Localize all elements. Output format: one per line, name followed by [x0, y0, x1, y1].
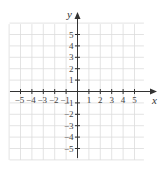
x-tick-label: 1 — [87, 95, 92, 105]
x-tick-label: 2 — [98, 95, 103, 105]
y-tick-label: 1 — [69, 75, 74, 85]
y-axis-arrow-icon — [75, 12, 81, 19]
y-axis-label: y — [66, 8, 72, 20]
y-tick-label: 3 — [69, 52, 74, 62]
x-tick-label: −3 — [38, 95, 48, 105]
y-tick-label: −3 — [64, 121, 74, 131]
x-tick-label: −2 — [49, 95, 59, 105]
y-tick-label: −5 — [64, 144, 74, 154]
x-tick-label: 3 — [109, 95, 114, 105]
coordinate-plane: −5−4−3−2−11234554321−1−2−3−4−5 x y — [0, 0, 163, 177]
y-tick-label: −4 — [64, 132, 74, 142]
y-tick-label: 5 — [69, 30, 74, 40]
y-tick-label: −1 — [64, 98, 74, 108]
x-tick-label: −4 — [26, 95, 36, 105]
x-tick-label: −5 — [15, 95, 25, 105]
x-tick-label: 4 — [121, 95, 126, 105]
x-tick-label: 5 — [132, 95, 137, 105]
y-tick-label: −2 — [64, 109, 74, 119]
y-tick-label: 4 — [69, 41, 74, 51]
x-axis-label: x — [151, 94, 157, 106]
y-tick-label: 2 — [69, 64, 74, 74]
